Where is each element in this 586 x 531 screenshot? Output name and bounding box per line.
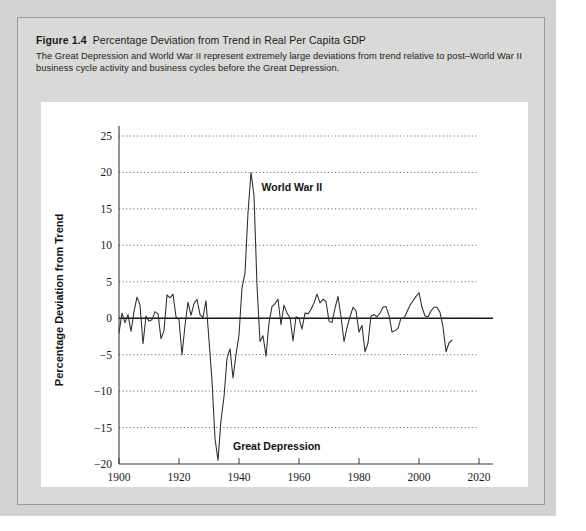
xtick-label-1900: 1900 [108, 471, 131, 483]
xtick-label-1960: 1960 [288, 471, 311, 483]
xtick-label-1940: 1940 [228, 471, 251, 483]
figure-panel: Figure 1.4 Percentage Deviation from Tre… [17, 17, 545, 505]
ytick-label-0: 0 [106, 312, 112, 324]
ytick-label-15: 15 [101, 203, 113, 215]
ytick-label--5: −5 [100, 349, 112, 361]
xtick-label-2020: 2020 [468, 471, 491, 483]
y-tick-labels-group: −20−15−10−50510152025 [94, 130, 112, 470]
y-axis-title: Percentage Deviation from Trend [53, 214, 65, 386]
figure-title-line: Figure 1.4 Percentage Deviation from Tre… [36, 33, 530, 47]
annotation-world-war-ii: World War II [262, 181, 323, 193]
figure-number: Figure 1.4 [36, 34, 87, 46]
ytick-label--20: −20 [94, 458, 112, 470]
ytick-label--10: −10 [94, 385, 112, 397]
xtick-label-1980: 1980 [348, 471, 371, 483]
figure-description-line-1: The Great Depression and World War II re… [36, 50, 530, 62]
axes-group [119, 126, 493, 464]
ytick-label--15: −15 [94, 422, 112, 434]
figure-description-line-2: business cycle activity and business cyc… [36, 62, 530, 74]
xtick-label-2000: 2000 [408, 471, 431, 483]
ytick-label-20: 20 [101, 166, 113, 178]
figure-title-text: Percentage Deviation from Trend in Real … [93, 34, 366, 46]
ytick-label-25: 25 [101, 130, 113, 142]
x-tick-labels-group: 1900192019401960198020002020 [108, 471, 491, 483]
deviation-from-trend-line-chart: −20−15−10−50510152025 190019201940196019… [41, 102, 528, 487]
chart-annotations-group: World War IIGreat Depression [233, 181, 322, 452]
gdp-deviation-series-line [119, 172, 452, 460]
gridlines-group [119, 136, 479, 428]
ytick-label-5: 5 [106, 276, 112, 288]
annotation-great-depression: Great Depression [233, 440, 321, 452]
chart-card: −20−15−10−50510152025 190019201940196019… [41, 102, 528, 487]
ytick-label-10: 10 [101, 239, 113, 251]
figure-caption: Figure 1.4 Percentage Deviation from Tre… [36, 33, 530, 75]
xtick-label-1920: 1920 [168, 471, 191, 483]
figure-page: Figure 1.4 Percentage Deviation from Tre… [0, 0, 586, 531]
axis-ticks-group [119, 458, 479, 464]
